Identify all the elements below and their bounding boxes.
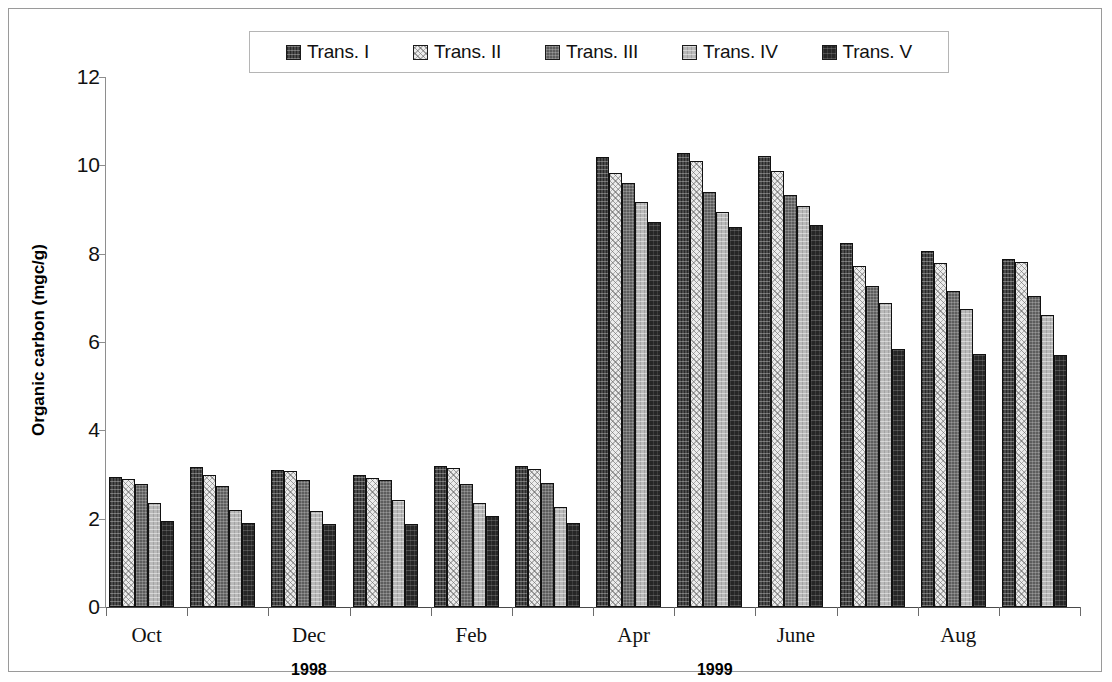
bar [690,161,703,607]
bar [973,354,986,607]
bar [892,349,905,607]
bar-group [187,77,268,607]
x-axis-tick-mark [106,607,107,616]
bar [648,222,661,607]
x-axis-tick-label: Dec [292,623,326,648]
bar [486,516,499,607]
x-axis-tick-label: Apr [617,623,650,648]
bar [1002,259,1015,607]
bar [284,471,297,607]
bar-groups [106,77,1080,607]
x-axis-tick-mark [837,607,838,616]
x-axis-tick-mark [187,607,188,616]
bar [622,183,635,607]
bar [515,466,528,607]
legend-swatch-icon [413,45,428,60]
bar [677,153,690,607]
y-axis-tick-mark [99,430,106,431]
y-axis-tick-mark [99,342,106,343]
bar [460,484,473,607]
x-axis-tick-mark [512,607,513,616]
bar-group [268,77,349,607]
bar-group [837,77,918,607]
bar [135,484,148,607]
x-axis-tick-mark [1080,607,1081,616]
bar [729,227,742,607]
bar [703,192,716,607]
y-axis-tick-mark [99,254,106,255]
legend-swatch-icon [682,45,697,60]
bar [840,243,853,607]
bar [771,171,784,607]
bar [161,521,174,607]
bar [567,523,580,607]
bar [242,523,255,607]
legend-item-3: Trans. III [545,41,638,63]
y-axis-tick-mark [99,607,106,608]
legend-item-5: Trans. V [822,41,913,63]
bar [596,157,609,608]
x-axis-tick-mark [918,607,919,616]
legend-item-4: Trans. IV [682,41,778,63]
legend-label: Trans. III [566,41,638,63]
bar [310,511,323,607]
bar [271,470,284,607]
x-axis-tick-label: Feb [456,623,488,648]
bar [866,286,879,607]
bar-group [674,77,755,607]
bar [797,206,810,607]
bar [853,266,866,607]
bar-group [593,77,674,607]
bar-group [106,77,187,607]
y-axis-tick-mark [99,77,106,78]
x-axis-tick-mark [593,607,594,616]
x-axis-tick-label: June [777,623,816,648]
bar [541,483,554,607]
y-axis-tick-mark [99,519,106,520]
bar [447,468,460,607]
y-axis-tick-label: 10 [77,153,100,177]
chart-legend: Trans. ITrans. IITrans. IIITrans. IVTran… [249,31,949,73]
chart-frame: Trans. ITrans. IITrans. IIITrans. IVTran… [8,8,1102,672]
x-axis-tick-mark [674,607,675,616]
x-axis-year-annotation: 1998 [291,661,327,679]
x-axis-tick-label: Aug [940,623,976,648]
bar-group [431,77,512,607]
bar [758,156,771,607]
x-axis-year-annotation: 1999 [697,661,733,679]
bar [379,480,392,607]
bar-group [350,77,431,607]
x-axis-tick-mark [431,607,432,616]
y-axis-title: Organic carbon (mgc/g) [29,175,49,505]
legend-label: Trans. I [307,41,369,63]
bar [148,503,161,607]
bar [1041,315,1054,607]
bar [1028,296,1041,607]
bar [109,477,122,607]
y-axis-tick-mark [99,165,106,166]
x-axis-tick-label: Oct [131,623,161,648]
legend-swatch-icon [286,45,301,60]
bar [190,467,203,607]
legend-item-1: Trans. I [286,41,369,63]
bar [323,524,336,607]
bar [392,500,405,607]
bar-group [755,77,836,607]
bar [609,173,622,607]
bar-group [999,77,1080,607]
bar [353,475,366,608]
bar [934,263,947,608]
legend-swatch-icon [545,45,560,60]
bar [405,524,418,607]
x-axis-tick-mark [999,607,1000,616]
bar [784,195,797,607]
bar [716,212,729,607]
legend-label: Trans. IV [703,41,778,63]
bar [434,466,447,607]
bar [554,507,567,607]
bar-group [512,77,593,607]
y-axis-tick-label: 12 [77,65,100,89]
bar [229,510,242,607]
bar [528,469,541,607]
legend-item-2: Trans. II [413,41,501,63]
